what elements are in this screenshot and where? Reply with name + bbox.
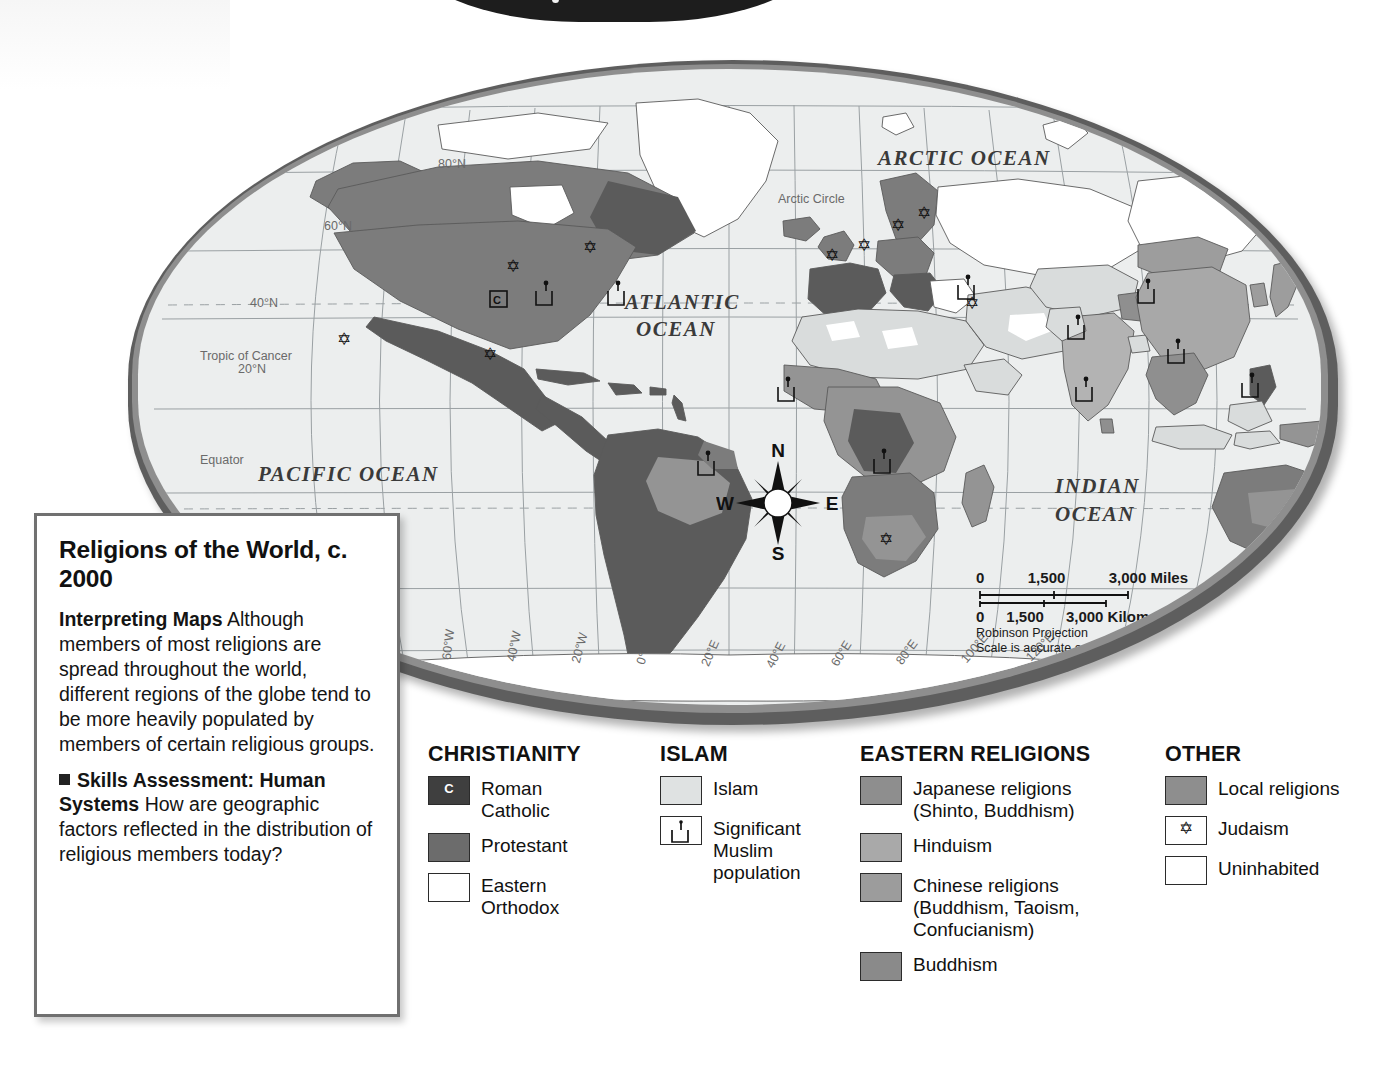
caption-box: Religions of the World, c. 2000 Interpre… xyxy=(34,513,400,1017)
landmass-sri-lanka xyxy=(1100,419,1114,433)
legend-label: EasternOrthodox xyxy=(481,873,559,919)
legend-item-eastern-orthodox: EasternOrthodox xyxy=(428,873,660,919)
compass-north: N xyxy=(771,441,785,461)
landmass-indonesia-2 xyxy=(1234,431,1280,449)
compass-south: S xyxy=(772,543,785,564)
scale-km-tick-0: 0 xyxy=(976,608,984,625)
legend-label: Local religions xyxy=(1218,776,1339,800)
landmass-novaya-zemlya xyxy=(1043,117,1088,149)
longitude-label: 60°W xyxy=(440,628,458,660)
landmass-iceland xyxy=(783,217,820,241)
interpreting-maps-paragraph: Interpreting Maps Although members of mo… xyxy=(59,607,377,757)
legend-label: Japanese religions(Shinto, Buddhism) xyxy=(913,776,1075,822)
landmass-philippines xyxy=(1250,365,1276,405)
legend-item-uninhabited: Uninhabited xyxy=(1165,856,1358,885)
landmass-tasmania xyxy=(1288,561,1304,573)
compass-east: E xyxy=(826,493,839,514)
landmass-hispaniola xyxy=(608,383,642,395)
legend-label: Protestant xyxy=(481,833,568,857)
legend-item-chinese-religions: Chinese religions(Buddhism, Taoism,Confu… xyxy=(860,873,1165,941)
star-of-david-icon: ✡ xyxy=(337,329,351,349)
star-of-david-icon: ✡ xyxy=(1166,820,1206,837)
legend-label: Judaism xyxy=(1218,816,1289,840)
compass-west: W xyxy=(716,493,734,514)
swatch-japanese-religions xyxy=(860,776,902,805)
ocean-label: OCEAN xyxy=(1055,502,1135,526)
ocean-label: PACIFIC OCEAN xyxy=(257,462,439,486)
skills-assessment-lead: Skills Assessment: xyxy=(77,769,254,791)
legend-item-buddhism: Buddhism xyxy=(860,952,1165,981)
legend-label: Chinese religions(Buddhism, Taoism,Confu… xyxy=(913,873,1080,941)
star-of-david-icon: ✡ xyxy=(583,237,597,257)
legend-column-eastern-religions: EASTERN RELIGIONS Japanese religions(Shi… xyxy=(860,742,1165,1032)
map-legend: CHRISTIANITY C RomanCatholic Protestant … xyxy=(428,742,1358,1032)
star-of-david-icon: ✡ xyxy=(891,215,905,235)
page-header-ornament xyxy=(404,0,824,22)
landmass-korea xyxy=(1250,283,1268,307)
legend-label: Buddhism xyxy=(913,952,998,976)
legend-label: Hinduism xyxy=(913,833,992,857)
scale-miles-tick-1: 1,500 xyxy=(1028,569,1066,586)
landmass-cuba xyxy=(536,369,600,385)
interpreting-maps-lead: Interpreting Maps xyxy=(59,608,223,630)
arctic-circle-label: Arctic Circle xyxy=(778,192,845,206)
landmass-indonesia-1 xyxy=(1152,425,1232,449)
svg-text:C: C xyxy=(493,294,501,306)
landmass-japan xyxy=(1270,261,1298,317)
ocean-label: OCEAN xyxy=(636,317,716,341)
skills-assessment-paragraph: Skills Assessment: Human Systems How are… xyxy=(59,768,377,868)
landmass-svalbard xyxy=(882,113,914,135)
swatch-roman-catholic: C xyxy=(428,776,470,805)
legend-item-roman-catholic: C RomanCatholic xyxy=(428,776,660,822)
star-of-david-icon: ✡ xyxy=(825,245,839,265)
star-of-david-icon: ✡ xyxy=(483,344,497,364)
scale-accuracy-note: Scale is accurate only along the equator… xyxy=(976,641,1216,655)
latitude-label: Equator xyxy=(200,453,244,467)
scale-km-tick-2: 3,000 Kilometers xyxy=(1066,608,1185,625)
legend-label: SignificantMuslimpopulation xyxy=(713,816,801,884)
star-of-david-icon: ✡ xyxy=(917,203,931,223)
legend-item-japanese-religions: Japanese religions(Shinto, Buddhism) xyxy=(860,776,1165,822)
scale-miles-tick-0: 0 xyxy=(976,569,984,586)
landmass-arctic-islands xyxy=(438,113,608,159)
swatch-hinduism xyxy=(860,833,902,862)
swatch-eastern-orthodox xyxy=(428,873,470,902)
legend-column-islam: ISLAM Islam SignificantMuslimpopulation xyxy=(660,742,860,1032)
legend-item-hinduism: Hinduism xyxy=(860,833,1165,862)
star-of-david-icon: ✡ xyxy=(506,256,520,276)
landmass-borneo xyxy=(1228,401,1272,431)
legend-title: OTHER xyxy=(1165,742,1358,767)
landmass-madagascar xyxy=(962,465,994,527)
landmass-new-guinea xyxy=(1280,421,1321,447)
swatch-significant-muslim xyxy=(660,816,702,845)
catholic-c-glyph: C xyxy=(429,781,469,796)
legend-label: Uninhabited xyxy=(1218,856,1319,880)
swatch-islam xyxy=(660,776,702,805)
scale-miles-tick-2: 3,000 Miles xyxy=(1109,569,1188,586)
swatch-buddhism xyxy=(860,952,902,981)
projection-name: Robinson Projection xyxy=(976,626,1216,640)
scale-bar: 0 1,500 3,000 Miles 0 1,500 3,000 Kilome… xyxy=(976,569,1216,655)
swatch-local-religions xyxy=(1165,776,1207,805)
legend-item-judaism: ✡ Judaism xyxy=(1165,816,1358,845)
ocean-label: ATLANTIC xyxy=(623,290,740,314)
mosque-icon xyxy=(670,820,692,843)
compass-rose: N S E W xyxy=(716,441,840,565)
landmass-germany-central xyxy=(876,237,934,277)
legend-item-significant-muslim: SignificantMuslimpopulation xyxy=(660,816,860,884)
latitude-label: 80°N xyxy=(438,157,466,171)
latitude-label: 40°N xyxy=(250,296,278,310)
swatch-chinese-religions xyxy=(860,873,902,902)
tropic-label: Tropic of Cancer xyxy=(200,349,292,363)
ocean-label: ARCTIC OCEAN xyxy=(876,146,1051,170)
legend-item-local-religions: Local religions xyxy=(1165,776,1358,805)
swatch-uninhabited xyxy=(1165,856,1207,885)
landmass-horn-of-africa xyxy=(964,359,1022,395)
swatch-protestant xyxy=(428,833,470,862)
scale-bar-graphic xyxy=(978,587,1164,607)
legend-title: ISLAM xyxy=(660,742,860,767)
legend-item-protestant: Protestant xyxy=(428,833,660,862)
star-of-david-icon: ✡ xyxy=(965,293,979,313)
swatch-judaism: ✡ xyxy=(1165,816,1207,845)
landmass-russia-west xyxy=(936,179,1148,275)
